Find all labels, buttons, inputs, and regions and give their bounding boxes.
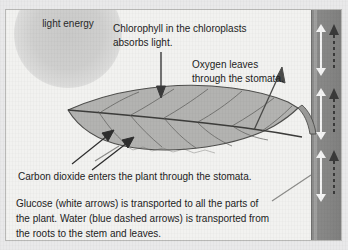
glucose-pointer-line <box>272 175 311 201</box>
leader-lines <box>6 10 342 241</box>
co2-pointer-line <box>95 146 119 161</box>
photosynthesis-diagram: light energy <box>0 0 348 250</box>
diagram-frame: light energy <box>5 9 342 241</box>
